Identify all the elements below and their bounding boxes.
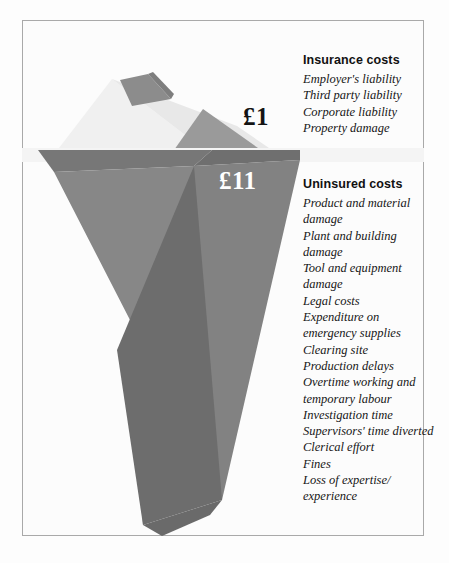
list-item: Property damage	[303, 120, 435, 136]
list-item: Tool and equipment damage	[303, 260, 435, 293]
list-item: Production delays	[303, 358, 435, 374]
list-item: Fines	[303, 456, 435, 472]
list-item: Supervisors' time diverted	[303, 423, 435, 439]
uninsured-cost-amount: £11	[219, 168, 257, 193]
figure-page: £1 £11 Insurance costs Employer's liabil…	[0, 0, 449, 563]
list-item: Product and material damage	[303, 195, 435, 228]
list-item: Loss of expertise/ experience	[303, 472, 435, 505]
insured-cost-amount: £1	[243, 104, 269, 129]
list-item: Employer's liability	[303, 71, 435, 87]
list-item: Legal costs	[303, 293, 435, 309]
list-item: Third party liability	[303, 87, 435, 103]
list-item: Overtime working and temporary labour	[303, 374, 435, 407]
list-item: Clearing site	[303, 342, 435, 358]
list-item: Investigation time	[303, 407, 435, 423]
uninsured-costs-block: Uninsured costs Product and material dam…	[303, 177, 435, 505]
insurance-costs-heading: Insurance costs	[303, 53, 435, 67]
insurance-costs-block: Insurance costs Employer's liability Thi…	[303, 53, 435, 136]
uninsured-costs-heading: Uninsured costs	[303, 177, 435, 191]
list-item: Expenditure on emergency supplies	[303, 309, 435, 342]
list-item: Corporate liability	[303, 104, 435, 120]
list-item: Clerical effort	[303, 439, 435, 455]
list-item: Plant and building damage	[303, 228, 435, 261]
uninsured-costs-list: Product and material damage Plant and bu…	[303, 195, 435, 505]
insurance-costs-list: Employer's liability Third party liabili…	[303, 71, 435, 136]
